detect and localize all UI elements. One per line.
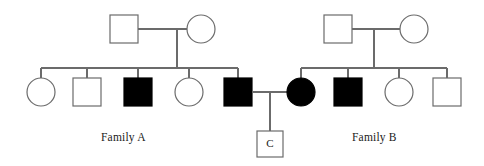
child-c-label: C	[257, 137, 283, 149]
symbol-circle-female-unaffected-a-i-2	[187, 15, 215, 43]
symbol-square-male-affected-a-ii-5	[224, 78, 252, 106]
family-b-generation-i	[324, 15, 428, 68]
family-a-sibline-group	[41, 68, 238, 78]
central-mating-group	[252, 92, 287, 131]
symbol-square-male-unaffected-a-i-1	[110, 15, 138, 43]
family-a-generation-ii	[27, 78, 252, 106]
symbol-square-male-unaffected-b-i-1	[324, 15, 352, 43]
family-a-label: Family A	[101, 131, 146, 143]
pedigree-diagram: Family A Family B C	[0, 0, 484, 166]
symbol-square-male-unaffected-a-ii-2	[73, 78, 101, 106]
pedigree-canvas	[0, 0, 484, 166]
symbol-circle-female-unaffected-b-ii-3	[385, 78, 413, 106]
family-b-generation-ii	[287, 78, 461, 106]
family-b-label: Family B	[352, 131, 397, 143]
family-a-generation-i	[110, 15, 215, 68]
symbol-circle-female-unaffected-a-ii-4	[175, 78, 203, 106]
symbol-circle-female-affected-b-ii-1	[287, 78, 315, 106]
family-b-sibline-group	[301, 68, 447, 78]
symbol-circle-female-unaffected-b-i-2	[400, 15, 428, 43]
symbol-circle-female-unaffected-a-ii-1	[27, 78, 55, 106]
symbol-square-male-affected-a-ii-3	[124, 78, 152, 106]
symbol-square-male-affected-b-ii-2	[334, 78, 362, 106]
symbol-square-male-unaffected-b-ii-4	[433, 78, 461, 106]
